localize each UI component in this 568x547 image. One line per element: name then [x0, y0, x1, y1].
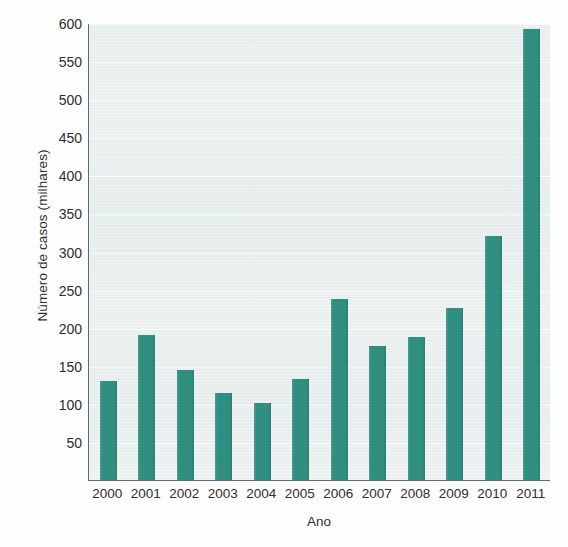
y-tick-label: 300: [34, 245, 82, 261]
bar-2001: [138, 335, 155, 480]
gridline: [89, 291, 550, 292]
x-tick-label: 2003: [203, 486, 243, 501]
y-tick-label: 150: [34, 359, 82, 375]
y-tick-label: 50: [34, 435, 82, 451]
x-tick-label: 2010: [472, 486, 512, 501]
gridline: [89, 176, 550, 177]
y-tick-label: 550: [34, 54, 82, 70]
y-tick-label: 600: [34, 16, 82, 32]
gridline: [89, 100, 550, 101]
bar-2003: [215, 393, 232, 480]
y-tick-label: 200: [34, 321, 82, 337]
gridline: [89, 62, 550, 63]
gridline: [89, 138, 550, 139]
bar-2011: [523, 29, 540, 480]
bar-2006: [331, 299, 348, 480]
gridline: [89, 367, 550, 368]
bar-2008: [408, 337, 425, 480]
bar-2005: [292, 379, 309, 480]
bar-chart-figure: Número de casos (milhares) 5010015020025…: [0, 0, 568, 547]
y-tick-label: 250: [34, 283, 82, 299]
y-tick-label: 450: [34, 130, 82, 146]
bar-2007: [369, 346, 386, 480]
x-tick-label: 2005: [280, 486, 320, 501]
x-tick-label: 2009: [434, 486, 474, 501]
x-tick-label: 2001: [126, 486, 166, 501]
y-axis-tick-labels: 50100150200250300350400450500550600: [34, 0, 82, 547]
x-tick-label: 2008: [395, 486, 435, 501]
bar-2010: [485, 236, 502, 480]
x-axis-tick-labels: 2000200120022003200420052006200720082009…: [88, 486, 550, 508]
x-tick-label: 2007: [357, 486, 397, 501]
x-tick-label: 2011: [511, 486, 551, 501]
y-tick-label: 350: [34, 206, 82, 222]
y-tick-label: 100: [34, 397, 82, 413]
gridline: [89, 24, 550, 25]
x-tick-label: 2006: [318, 486, 358, 501]
gridline: [89, 405, 550, 406]
gridline: [89, 214, 550, 215]
plot-area: [88, 24, 550, 481]
x-tick-label: 2002: [164, 486, 204, 501]
gridline: [89, 329, 550, 330]
x-axis-title: Ano: [88, 514, 550, 529]
x-tick-label: 2004: [241, 486, 281, 501]
y-tick-label: 500: [34, 92, 82, 108]
bar-2000: [100, 381, 117, 480]
x-tick-label: 2000: [87, 486, 127, 501]
bar-2002: [177, 370, 194, 480]
gridline: [89, 253, 550, 254]
y-tick-label: 400: [34, 168, 82, 184]
bar-2004: [254, 403, 271, 480]
gridline: [89, 443, 550, 444]
bar-2009: [446, 308, 463, 480]
